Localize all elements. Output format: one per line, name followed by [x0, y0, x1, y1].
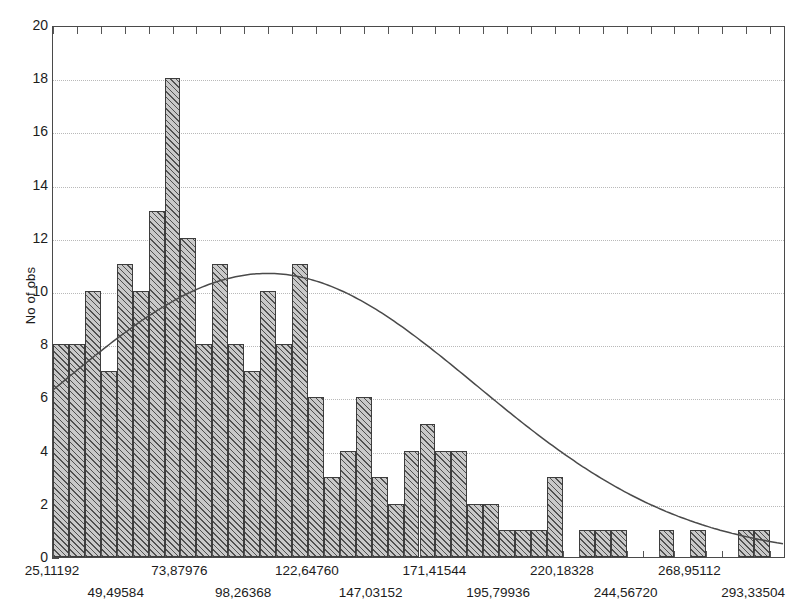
- y-tick-label: 20: [8, 17, 48, 33]
- y-tick-label: 4: [8, 443, 48, 459]
- x-tick-label: 171,41544: [403, 563, 467, 578]
- histogram-bar: [420, 424, 436, 557]
- x-tick-mark-bottom: [149, 551, 150, 557]
- y-tick-label: 10: [8, 283, 48, 299]
- histogram-bar: [690, 530, 706, 557]
- histogram-bar: [372, 477, 388, 557]
- y-tick-mark: [52, 558, 59, 559]
- x-tick-mark-bottom: [212, 551, 213, 557]
- x-tick-mark-top: [244, 27, 245, 34]
- histogram-bar: [276, 344, 292, 557]
- x-tick-mark-top: [770, 27, 771, 34]
- x-tick-mark-top: [125, 27, 126, 34]
- histogram-bar: [292, 264, 308, 557]
- x-tick-mark-top: [579, 27, 580, 34]
- histogram-bar: [53, 344, 69, 557]
- x-tick-mark-top: [603, 27, 604, 34]
- x-tick-mark-top: [627, 27, 628, 34]
- x-tick-mark-top: [149, 27, 150, 34]
- histogram-bar: [404, 451, 420, 557]
- histogram-bar: [133, 291, 149, 557]
- x-tick-mark-bottom: [515, 551, 516, 557]
- x-tick-mark-bottom: [85, 551, 86, 557]
- x-tick-mark-bottom: [595, 551, 596, 557]
- y-tick-label: 6: [8, 389, 48, 405]
- x-tick-mark-bottom: [53, 551, 54, 557]
- x-tick-mark-top: [220, 27, 221, 34]
- histogram-bar: [260, 291, 276, 557]
- x-tick-label: 49,49584: [88, 585, 144, 600]
- y-tick-label: 14: [8, 177, 48, 193]
- x-tick-mark-bottom: [770, 551, 771, 557]
- x-tick-mark-top: [340, 27, 341, 34]
- x-tick-mark-top: [698, 27, 699, 34]
- histogram-bar: [754, 530, 770, 557]
- x-tick-mark-bottom: [483, 551, 484, 557]
- histogram-bar: [515, 530, 531, 557]
- x-tick-mark-bottom: [165, 551, 166, 557]
- x-tick-mark-top: [173, 27, 174, 34]
- x-tick-mark-bottom: [308, 551, 309, 557]
- x-tick-mark-top: [364, 27, 365, 34]
- histogram-bar: [547, 477, 563, 557]
- x-tick-mark-top: [77, 27, 78, 34]
- x-tick-mark-bottom: [292, 551, 293, 557]
- x-tick-mark-bottom: [435, 551, 436, 557]
- x-tick-mark-top: [722, 27, 723, 34]
- x-tick-label: 73,87976: [151, 563, 207, 578]
- x-tick-mark-bottom: [722, 551, 723, 557]
- histogram-figure: No of obs 02468101214161820 25,1119249,4…: [0, 0, 795, 616]
- x-tick-mark-bottom: [643, 551, 644, 557]
- x-tick-mark-top: [483, 27, 484, 34]
- histogram-bar: [659, 530, 675, 557]
- x-tick-mark-bottom: [627, 551, 628, 557]
- histogram-bar: [149, 211, 165, 557]
- x-tick-mark-top: [555, 27, 556, 34]
- histogram-bar: [467, 504, 483, 557]
- x-tick-mark-bottom: [180, 551, 181, 557]
- x-tick-mark-top: [101, 27, 102, 34]
- histogram-bar: [212, 264, 228, 557]
- x-tick-mark-top: [53, 27, 54, 34]
- x-tick-mark-top: [388, 27, 389, 34]
- x-tick-mark-bottom: [388, 551, 389, 557]
- x-tick-mark-bottom: [101, 551, 102, 557]
- histogram-bar: [435, 451, 451, 557]
- x-tick-label: 147,03152: [339, 585, 403, 600]
- histogram-bar: [69, 344, 85, 557]
- x-tick-mark-bottom: [133, 551, 134, 557]
- x-tick-mark-bottom: [340, 551, 341, 557]
- x-tick-mark-top: [412, 27, 413, 34]
- x-tick-mark-bottom: [563, 551, 564, 557]
- x-tick-mark-top: [435, 27, 436, 34]
- x-tick-mark-bottom: [579, 551, 580, 557]
- x-tick-mark-bottom: [690, 551, 691, 557]
- x-tick-mark-bottom: [324, 551, 325, 557]
- histogram-bar: [611, 530, 627, 557]
- gridline: [53, 80, 784, 81]
- x-tick-mark-bottom: [451, 551, 452, 557]
- histogram-bar: [244, 371, 260, 557]
- histogram-bar: [308, 397, 324, 557]
- y-tick-label: 18: [8, 70, 48, 86]
- x-tick-mark-bottom: [467, 551, 468, 557]
- x-tick-mark-top: [507, 27, 508, 34]
- histogram-bar: [579, 530, 595, 557]
- x-tick-mark-top: [316, 27, 317, 34]
- x-tick-mark-top: [292, 27, 293, 34]
- gridline: [53, 187, 784, 188]
- x-tick-mark-top: [746, 27, 747, 34]
- x-tick-label: 122,64760: [275, 563, 339, 578]
- x-tick-mark-bottom: [228, 551, 229, 557]
- x-tick-mark-top: [651, 27, 652, 34]
- histogram-bar: [165, 78, 181, 557]
- y-tick-label: 8: [8, 336, 48, 352]
- histogram-bar: [388, 504, 404, 557]
- x-tick-label: 195,79936: [466, 585, 530, 600]
- y-tick-label: 12: [8, 230, 48, 246]
- histogram-bar: [228, 344, 244, 557]
- histogram-bar: [499, 530, 515, 557]
- x-tick-mark-bottom: [611, 551, 612, 557]
- histogram-bar: [324, 477, 340, 557]
- plot-area: [52, 26, 785, 558]
